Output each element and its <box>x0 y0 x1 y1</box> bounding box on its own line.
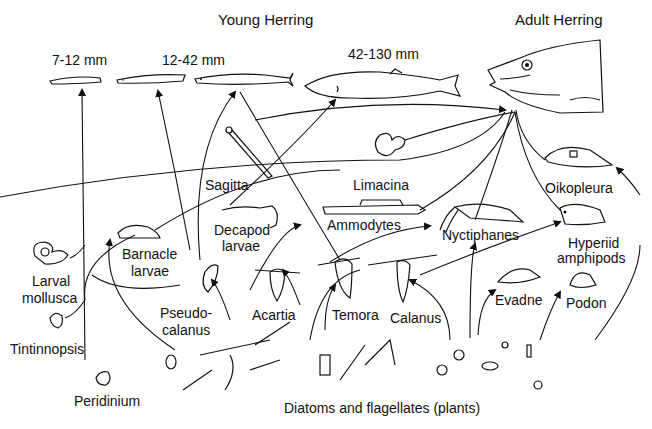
label-mollusca: mollusca <box>22 290 77 306</box>
herring-12-42mm <box>117 75 185 84</box>
label-barnacle-larvae: larvae <box>131 263 169 279</box>
size-label-12-42mm: 12-42 mm <box>162 52 225 68</box>
label-temora: Temora <box>332 307 379 323</box>
evadne-figure <box>498 269 540 283</box>
label-ammodytes: Ammodytes <box>327 217 401 233</box>
ammodytes-figure <box>323 200 425 214</box>
oikopleura-figure <box>545 147 612 167</box>
adult-herring <box>488 40 603 113</box>
podon-figure <box>570 273 596 288</box>
label-nyctiphanes: Nyctiphanes <box>442 227 519 243</box>
label-calanus-pseudo: calanus <box>162 322 210 338</box>
label-sagitta: Sagitta <box>205 177 249 193</box>
label-decapod-larvae: larvae <box>222 238 260 254</box>
label-barnacle: Barnacle <box>122 246 177 262</box>
tintinnopsis-figure <box>50 313 63 328</box>
peridinium-figure <box>96 372 110 386</box>
size-label-7-12mm: 7-12 mm <box>52 52 107 68</box>
adult-herring-title: Adult Herring <box>515 12 603 28</box>
label-acartia: Acartia <box>252 307 296 323</box>
label-limacina: Limacina <box>353 177 409 193</box>
size-label-42-130mm: 42-130 mm <box>348 46 419 62</box>
calanus-figure <box>368 255 437 302</box>
herring-7-12mm <box>50 77 101 84</box>
barnacle-figure <box>118 225 160 238</box>
diatoms-flagellates-figures <box>166 322 542 390</box>
label-podon: Podon <box>566 295 606 311</box>
label-calanus: Calanus <box>390 310 441 326</box>
label-evadne: Evadne <box>495 292 542 308</box>
temora-figure <box>318 258 360 298</box>
pseudocalanus-figure <box>203 265 218 292</box>
label-decapod: Decapod <box>214 222 270 238</box>
label-amphipods: amphipods <box>557 250 626 266</box>
label-peridinium: Peridinium <box>74 393 140 409</box>
label-pseudo: Pseudo- <box>160 305 212 321</box>
larval-mollusca-figure <box>34 242 68 264</box>
food-web-arrows <box>0 90 640 360</box>
label-larval: Larval <box>32 273 70 289</box>
label-tintinnopsis: Tintinnopsis <box>10 341 84 357</box>
herring-42-130mm <box>305 69 460 98</box>
young-herring-title: Young Herring <box>218 12 313 28</box>
label-oikopleura: Oikopleura <box>545 180 613 196</box>
label-diatoms-flagellates: Diatoms and flagellates (plants) <box>284 400 480 416</box>
acartia-figure <box>255 269 300 301</box>
limacina-figure <box>375 133 405 155</box>
hyperiid-figure <box>560 204 605 224</box>
herring-juvenile <box>195 73 293 86</box>
label-hyperiid: Hyperiid <box>568 235 619 251</box>
